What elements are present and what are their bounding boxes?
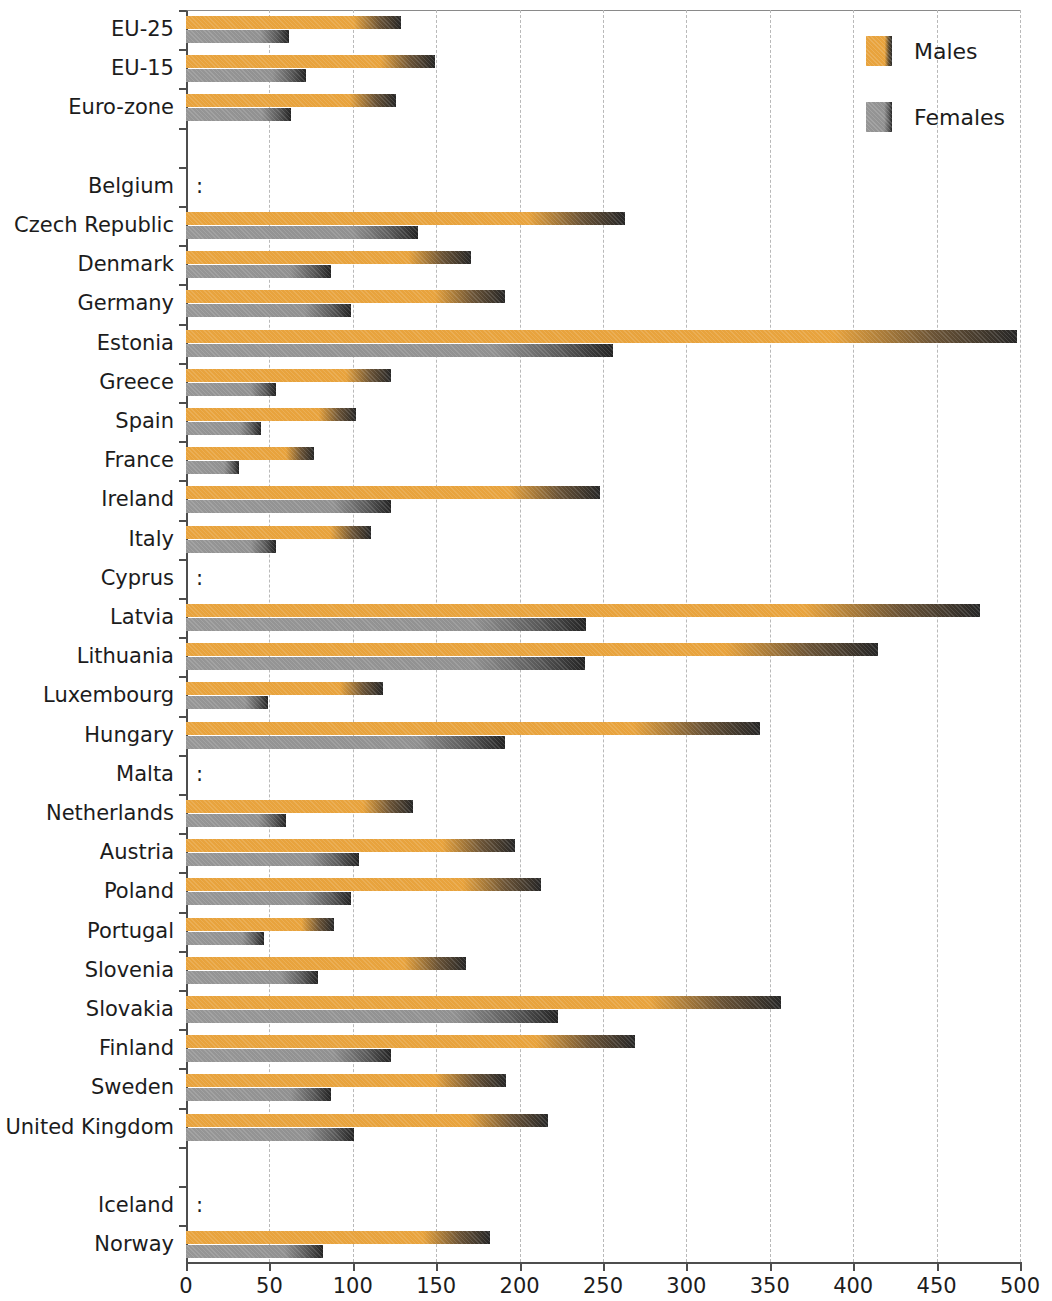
x-tick-label-400: 400 <box>833 1274 873 1298</box>
bar-female <box>186 971 318 984</box>
category-label-euro-zone: Euro-zone <box>0 95 174 119</box>
x-tick-150 <box>436 1262 438 1271</box>
bar-male <box>186 526 371 539</box>
bar-male <box>186 878 541 891</box>
bar-female <box>186 500 391 513</box>
bar-male <box>186 16 401 29</box>
bar-fill <box>186 1114 548 1127</box>
bar-male <box>186 94 396 107</box>
legend-label-females: Females <box>914 105 1005 130</box>
category-tick <box>179 245 186 247</box>
x-tick-400 <box>853 1262 855 1271</box>
bar-female <box>186 344 613 357</box>
category-tick <box>179 480 186 482</box>
bar-fill <box>186 461 239 474</box>
category-tick <box>179 912 186 914</box>
bar-fill <box>186 55 435 68</box>
bar-female <box>186 696 268 709</box>
category-tick <box>179 520 186 522</box>
category-tick <box>179 755 186 757</box>
category-label-belgium: Belgium <box>0 174 174 198</box>
bar-fill <box>186 892 351 905</box>
category-tick <box>179 794 186 796</box>
x-tick-label-150: 150 <box>416 1274 456 1298</box>
bar-row-estonia <box>186 324 1020 363</box>
legend: Males Females <box>866 34 1036 166</box>
bar-female <box>186 69 306 82</box>
x-tick-300 <box>686 1262 688 1271</box>
bar-fill <box>186 265 331 278</box>
bar-male <box>186 486 600 499</box>
bar-fill <box>186 722 760 735</box>
legend-swatch-males-icon <box>866 36 892 66</box>
bar-fill <box>186 996 781 1009</box>
x-tick-label-0: 0 <box>179 1274 192 1298</box>
bar-female <box>186 461 239 474</box>
bar-male <box>186 1035 635 1048</box>
bar-female <box>186 814 286 827</box>
bar-fill <box>186 1128 354 1141</box>
legend-entry-females: Females <box>866 100 1036 134</box>
bar-male <box>186 800 413 813</box>
category-label-united-kingdom: United Kingdom <box>0 1115 174 1139</box>
category-label-slovenia: Slovenia <box>0 958 174 982</box>
bar-female <box>186 265 331 278</box>
bar-female <box>186 932 264 945</box>
bar-male <box>186 369 391 382</box>
bar-fill <box>186 447 314 460</box>
category-label-cyprus: Cyprus <box>0 566 174 590</box>
x-tick-250 <box>603 1262 605 1271</box>
x-tick-label-50: 50 <box>256 1274 283 1298</box>
category-tick <box>179 10 186 12</box>
bar-fill <box>186 618 586 631</box>
bar-row-iceland <box>186 1186 1020 1225</box>
category-label-germany: Germany <box>0 291 174 315</box>
no-data-marker: : <box>196 762 203 786</box>
category-label-denmark: Denmark <box>0 252 174 276</box>
x-tick-350 <box>770 1262 772 1271</box>
no-data-marker: : <box>196 566 203 590</box>
category-label-austria: Austria <box>0 840 174 864</box>
gridline-500 <box>1020 10 1021 1262</box>
category-label-greece: Greece <box>0 370 174 394</box>
bar-male <box>186 957 466 970</box>
bar-fill <box>186 1088 331 1101</box>
category-tick <box>179 1147 186 1149</box>
bar-fill <box>186 971 318 984</box>
bar-row-malta <box>186 755 1020 794</box>
bar-row-latvia <box>186 598 1020 637</box>
x-tick-label-100: 100 <box>333 1274 373 1298</box>
bar-male <box>186 918 334 931</box>
bar-male <box>186 1114 548 1127</box>
bar-fill <box>186 1035 635 1048</box>
bar-fill <box>186 108 291 121</box>
bar-fill <box>186 422 261 435</box>
bar-fill <box>186 853 359 866</box>
bar-row-poland <box>186 872 1020 911</box>
x-tick-label-350: 350 <box>750 1274 790 1298</box>
bar-fill <box>186 226 418 239</box>
bar-row-ireland <box>186 480 1020 519</box>
category-label-sweden: Sweden <box>0 1075 174 1099</box>
category-tick <box>179 598 186 600</box>
category-tick <box>179 833 186 835</box>
x-tick-label-200: 200 <box>500 1274 540 1298</box>
bar-fill <box>186 369 391 382</box>
legend-swatch-females-icon <box>866 102 892 132</box>
bar-row-spacer <box>186 1147 1020 1186</box>
bar-row-italy <box>186 520 1020 559</box>
category-tick <box>179 167 186 169</box>
bar-fill <box>186 330 1017 343</box>
category-label-france: France <box>0 448 174 472</box>
bar-female <box>186 1049 391 1062</box>
legend-label-males: Males <box>914 39 978 64</box>
x-tick-500 <box>1020 1262 1022 1271</box>
legend-entry-males: Males <box>866 34 1036 68</box>
bar-fill <box>186 526 371 539</box>
bar-fill <box>186 643 878 656</box>
category-tick <box>179 676 186 678</box>
x-tick-label-500: 500 <box>1000 1274 1040 1298</box>
bar-fill <box>186 1010 558 1023</box>
bar-female <box>186 30 289 43</box>
bar-male <box>186 447 314 460</box>
